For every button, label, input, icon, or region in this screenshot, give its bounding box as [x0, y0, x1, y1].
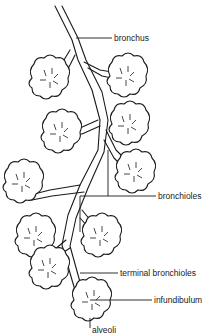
bronchial-tree-diagram: bronchus bronchioles terminal bronchiole…	[0, 0, 206, 336]
bronchial-tree-drawing	[0, 0, 206, 336]
alveolar-cluster	[3, 159, 44, 203]
alveolar-cluster	[115, 149, 156, 193]
label-bronchus: bronchus	[114, 33, 149, 43]
label-infundibulum: infundibulum	[154, 295, 202, 305]
alveolar-cluster	[109, 101, 150, 145]
alveolar-cluster	[29, 55, 70, 99]
alveolar-cluster	[29, 245, 70, 289]
alveolar-cluster	[81, 213, 122, 257]
label-terminal-bronchioles: terminal bronchioles	[120, 268, 196, 278]
alveolar-cluster	[107, 53, 148, 97]
alveolar-cluster	[41, 109, 82, 153]
label-bronchioles: bronchioles	[158, 191, 201, 201]
label-alveoli: alveoli	[92, 325, 116, 335]
alveolar-cluster-infundibulum	[71, 277, 112, 321]
